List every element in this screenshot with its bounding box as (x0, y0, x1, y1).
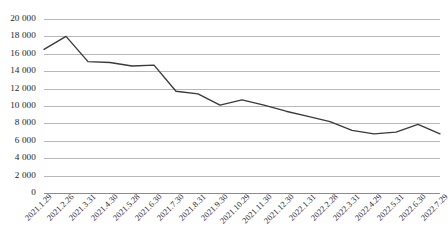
plot-area (44, 19, 440, 193)
y-tick-label: 16 000 (10, 49, 36, 58)
y-tick-label: 2 000 (15, 171, 36, 180)
y-tick-label: 10 000 (10, 101, 36, 110)
y-tick-label: 18 000 (10, 32, 36, 41)
x-axis: 2021.1.292021.2.262021.3.312021.4.302021… (0, 193, 448, 251)
y-tick-label: 8 000 (15, 119, 36, 128)
gridlines (44, 20, 440, 194)
line-chart: 20 00018 00016 00014 00012 00010 0008 00… (0, 0, 448, 251)
y-tick-label: 20 000 (10, 14, 36, 23)
y-tick-label: 12 000 (10, 84, 36, 93)
y-tick-label: 6 000 (15, 136, 36, 145)
y-tick-label: 14 000 (10, 67, 36, 76)
plot-svg (44, 19, 440, 193)
y-tick-label: 4 000 (15, 154, 36, 163)
data-series-line (44, 36, 440, 133)
